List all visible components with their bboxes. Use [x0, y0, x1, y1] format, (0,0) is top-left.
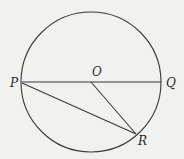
- chord-pr: [22, 83, 136, 134]
- circle-diagram: P O Q R: [0, 0, 184, 159]
- radius-or: [91, 82, 136, 134]
- label-p: P: [10, 77, 18, 89]
- label-o: O: [92, 66, 102, 78]
- label-q: Q: [166, 77, 176, 89]
- label-r: R: [138, 135, 147, 147]
- diagram-svg: [0, 0, 184, 159]
